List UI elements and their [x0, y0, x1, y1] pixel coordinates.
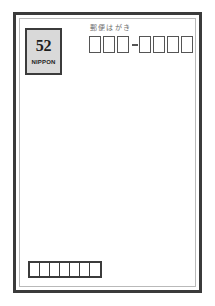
stamp-country-label: NIPPON [31, 59, 55, 65]
postal-code-cell[interactable] [139, 36, 151, 53]
sender-postal-code-cell[interactable] [80, 263, 90, 276]
postage-stamp: 52 NIPPON [25, 28, 62, 75]
postal-code-boxes[interactable] [89, 36, 193, 53]
sender-postal-code-cell[interactable] [50, 263, 60, 276]
postal-code-cell[interactable] [103, 36, 115, 53]
sender-postal-code-cell[interactable] [60, 263, 70, 276]
postcard: 52 NIPPON 郵便はがき [13, 12, 202, 293]
sender-postal-code-cell[interactable] [30, 263, 40, 276]
postcard-caption: 郵便はがき [90, 22, 131, 32]
sender-postal-code-cell[interactable] [70, 263, 80, 276]
postal-code-cell[interactable] [89, 36, 101, 53]
postal-code-cell[interactable] [153, 36, 165, 53]
postal-code-cell[interactable] [117, 36, 129, 53]
sender-postal-code-cell[interactable] [40, 263, 50, 276]
sender-postal-code-boxes[interactable] [28, 261, 102, 278]
stamp-denomination: 52 [36, 38, 51, 54]
sender-postal-code-cell[interactable] [90, 263, 100, 276]
postal-code-cell[interactable] [181, 36, 193, 53]
postal-code-separator-icon [132, 44, 138, 46]
postal-code-cell[interactable] [167, 36, 179, 53]
